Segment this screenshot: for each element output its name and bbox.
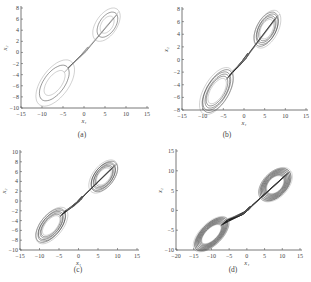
attractor-trajectory bbox=[193, 167, 292, 252]
subplot-a: −10−8−6−4−202468−15−10−5051015x₁x₂ (a) bbox=[0, 0, 155, 141]
y-tick-label: 2 bbox=[16, 38, 19, 44]
x-tick-label: −15 bbox=[189, 253, 198, 259]
plot-a-svg: −10−8−6−4−202468−15−10−5051015x₁x₂ bbox=[0, 0, 155, 141]
y-tick-label: −6 bbox=[12, 227, 18, 233]
y-tick-label: −2 bbox=[13, 61, 19, 67]
x-tick-label: 15 bbox=[297, 253, 303, 259]
caption-c: (c) bbox=[58, 265, 98, 274]
x-tick-label: 5 bbox=[263, 113, 266, 119]
y-tick-label: 8 bbox=[15, 159, 18, 165]
x-tick-label: −15 bbox=[177, 113, 186, 119]
x-tick-label: −20 bbox=[171, 253, 180, 259]
y-axis-label: x₂ bbox=[1, 45, 8, 52]
x-tick-label: 15 bbox=[144, 111, 150, 117]
y-tick-label: −6 bbox=[13, 83, 19, 89]
x-tick-label: −10 bbox=[198, 113, 207, 119]
x-tick-label: −15 bbox=[16, 111, 25, 117]
subplot-d: −10−5051015−20−15−10−5051015x₁x₂ (d) bbox=[155, 141, 311, 282]
y-tick-label: 4 bbox=[15, 178, 18, 184]
y-axis-label: x₂ bbox=[0, 188, 7, 195]
y-tick-label: −8 bbox=[12, 237, 18, 243]
x-tick-label: 10 bbox=[123, 111, 129, 117]
x-tick-label: −5 bbox=[60, 111, 66, 117]
attractor-trajectory bbox=[36, 160, 118, 244]
y-tick-label: 0 bbox=[16, 49, 19, 55]
y-tick-label: 5 bbox=[171, 188, 174, 194]
subplot-c: −10−8−6−4−20246810−15−10−5051015x₁x₂ (c) bbox=[0, 141, 155, 282]
y-tick-label: 10 bbox=[12, 149, 18, 155]
subplot-b: −8−6−4−202468−15−10−5051015x₁x₂ (b) bbox=[155, 0, 311, 141]
y-tick-label: −5 bbox=[168, 227, 174, 233]
y-axis-label: x₂ bbox=[162, 46, 169, 53]
y-tick-label: 6 bbox=[15, 169, 18, 175]
y-tick-label: 2 bbox=[177, 44, 180, 50]
y-tick-label: 4 bbox=[16, 27, 19, 33]
y-tick-label: −4 bbox=[174, 82, 180, 88]
caption-b: (b) bbox=[207, 130, 247, 139]
y-tick-label: 0 bbox=[171, 207, 174, 213]
x-tick-label: 10 bbox=[115, 253, 121, 259]
y-tick-label: −2 bbox=[174, 69, 180, 75]
y-tick-label: −8 bbox=[13, 94, 19, 100]
y-tick-label: 0 bbox=[15, 198, 18, 204]
plot-d-svg: −10−5051015−20−15−10−5051015x₁x₂ bbox=[155, 141, 311, 282]
attractor-trajectory bbox=[36, 8, 120, 106]
y-tick-label: 10 bbox=[168, 168, 174, 174]
x-tick-label: 5 bbox=[263, 253, 266, 259]
x-tick-label: −5 bbox=[220, 113, 226, 119]
x-tick-label: −10 bbox=[207, 253, 216, 259]
y-tick-label: 6 bbox=[16, 16, 19, 22]
x-tick-label: 15 bbox=[134, 253, 140, 259]
plot-b-svg: −8−6−4−202468−15−10−5051015x₁x₂ bbox=[155, 0, 311, 141]
attractor-trajectory bbox=[200, 10, 281, 114]
y-tick-label: 8 bbox=[177, 6, 180, 12]
x-axis-label: x₁ bbox=[80, 117, 86, 124]
x-tick-label: 10 bbox=[282, 113, 288, 119]
x-tick-label: −5 bbox=[56, 253, 62, 259]
x-tick-label: −10 bbox=[37, 111, 46, 117]
y-axis-label: x₂ bbox=[156, 187, 163, 194]
caption-a: (a) bbox=[62, 130, 102, 139]
x-tick-label: 5 bbox=[104, 111, 107, 117]
y-tick-label: 4 bbox=[177, 31, 180, 37]
y-tick-label: −4 bbox=[13, 72, 19, 78]
y-tick-label: −2 bbox=[12, 208, 18, 214]
x-tick-label: 10 bbox=[279, 253, 285, 259]
x-tick-label: 5 bbox=[97, 253, 100, 259]
x-tick-label: 15 bbox=[303, 113, 309, 119]
x-axis-label: x₁ bbox=[240, 119, 246, 126]
y-tick-label: 2 bbox=[15, 188, 18, 194]
plot-c-svg: −10−8−6−4−20246810−15−10−5051015x₁x₂ bbox=[0, 141, 155, 282]
x-tick-label: −5 bbox=[226, 253, 232, 259]
y-tick-label: −6 bbox=[174, 94, 180, 100]
y-tick-label: −4 bbox=[12, 218, 18, 224]
caption-d: (d) bbox=[213, 265, 253, 274]
y-tick-label: 6 bbox=[177, 19, 180, 25]
y-tick-label: 15 bbox=[168, 148, 174, 154]
y-tick-label: 8 bbox=[16, 5, 19, 11]
x-tick-label: −15 bbox=[15, 253, 24, 259]
x-tick-label: −10 bbox=[35, 253, 44, 259]
y-tick-label: 0 bbox=[177, 57, 180, 63]
